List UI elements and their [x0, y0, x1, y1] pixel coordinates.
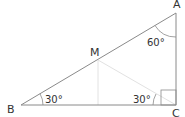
angle-label-c: 30°: [133, 94, 151, 105]
angle-arc-c: [153, 94, 156, 105]
vertex-label-c: C: [172, 107, 180, 117]
vertex-label-b: B: [7, 103, 15, 116]
angle-label-b: 30°: [45, 94, 63, 105]
triangle-diagram: A B C M 60° 30° 30°: [0, 0, 185, 117]
angle-arc-a: [155, 26, 176, 38]
angle-arc-b: [40, 94, 43, 105]
vertex-label-a: A: [173, 0, 181, 11]
vertex-label-m: M: [90, 46, 100, 59]
angle-label-a: 60°: [147, 37, 165, 48]
